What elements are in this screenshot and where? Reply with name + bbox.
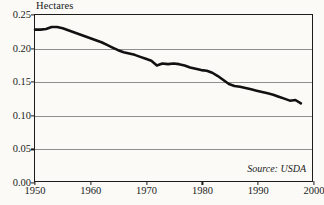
series-line-group <box>35 15 312 181</box>
y-tick-label-0.05: 0.05 <box>13 144 31 155</box>
y-tick-label-0.10: 0.10 <box>13 111 31 122</box>
series-line-grain-area-per-person <box>35 27 301 103</box>
y-tick-label-0.25: 0.25 <box>13 10 31 21</box>
x-tick-label-1950: 1950 <box>25 186 46 197</box>
x-tick-label-1960: 1960 <box>80 186 101 197</box>
x-tick-label-1990: 1990 <box>248 186 269 197</box>
y-axis-label: Hectares <box>36 0 74 11</box>
x-tick-label-2000: 2000 <box>304 186 324 197</box>
x-tick-label-1980: 1980 <box>192 186 213 197</box>
y-tick-label-0.15: 0.15 <box>13 77 31 88</box>
x-tick-label-1970: 1970 <box>136 186 157 197</box>
source-note: Source: USDA <box>247 163 306 174</box>
chart-figure: Hectares 0.000.050.100.150.200.25 195019… <box>0 0 324 205</box>
plot-area: 0.000.050.100.150.200.25 195019601970198… <box>34 14 313 182</box>
y-tick-label-0.20: 0.20 <box>13 43 31 54</box>
